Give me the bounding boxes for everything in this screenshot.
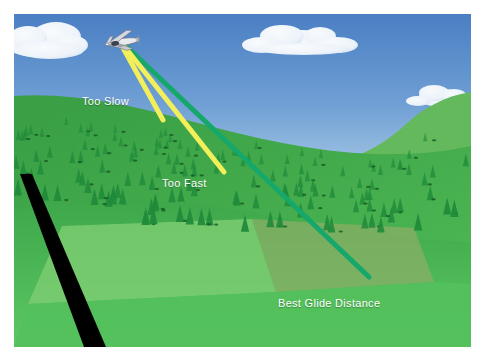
shrub — [89, 183, 93, 185]
shrub — [322, 195, 326, 197]
shrub — [180, 163, 184, 165]
shrub — [123, 144, 127, 146]
shrub — [431, 198, 435, 200]
shrub — [191, 175, 195, 177]
shrub — [104, 197, 108, 199]
shrub — [398, 211, 402, 213]
shrub — [321, 164, 325, 166]
shrub — [207, 223, 211, 225]
shrub — [432, 139, 436, 141]
shrub — [155, 188, 159, 190]
shrub — [283, 225, 287, 227]
shrub — [214, 224, 218, 226]
shrub — [371, 166, 375, 168]
shrub — [240, 203, 244, 205]
shrub — [256, 185, 260, 187]
shrub — [363, 203, 367, 205]
shrub — [302, 194, 306, 196]
shrub — [140, 149, 144, 151]
shrub — [106, 171, 110, 173]
illustration-scene: Too Slow Too Fast Best Glide Distance — [14, 14, 471, 347]
shrub — [163, 147, 167, 149]
shrub — [258, 147, 262, 149]
shrub — [91, 148, 95, 150]
shrub — [107, 152, 111, 154]
shrub — [133, 160, 137, 162]
shrub — [366, 186, 370, 188]
shrub — [78, 161, 82, 163]
shrub — [121, 131, 125, 133]
shrub — [44, 160, 48, 162]
shrub — [162, 153, 166, 155]
shrub — [318, 207, 322, 209]
shrub — [194, 155, 198, 157]
shrub — [94, 134, 98, 136]
shrub — [200, 174, 204, 176]
shrub — [64, 199, 68, 201]
shrub — [339, 230, 343, 232]
shrub — [402, 168, 406, 170]
shrub — [372, 209, 376, 211]
shrub — [375, 188, 379, 190]
scene-svg — [14, 14, 471, 347]
shrub — [173, 140, 177, 142]
shrub — [102, 203, 106, 205]
shrub — [222, 161, 226, 163]
shrub — [161, 209, 165, 211]
shrub — [169, 134, 173, 136]
glide-distance-figure: Too Slow Too Fast Best Glide Distance — [0, 0, 485, 361]
shrub — [46, 135, 50, 137]
shrub — [26, 138, 30, 140]
shrub — [414, 157, 418, 159]
shrub — [34, 134, 38, 136]
shrub — [428, 183, 432, 185]
shrub — [386, 215, 390, 217]
